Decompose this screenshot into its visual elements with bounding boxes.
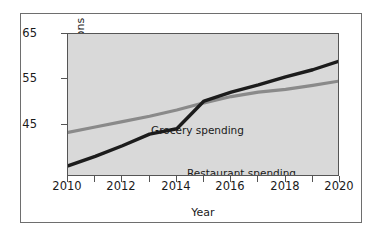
series-label-restaurant: Restaurant spending: [187, 167, 296, 176]
x-tick-mark-2013: [149, 176, 150, 182]
line-chart-svg: [68, 34, 339, 176]
y-tick-label-55: 55: [11, 71, 37, 85]
x-tick-label-2014: 2014: [156, 179, 196, 193]
y-tick-label-45: 45: [11, 117, 37, 131]
x-axis-title: Year: [67, 206, 339, 219]
plot-area: Grocery spending Restaurant spending: [67, 33, 339, 176]
y-tick-label-65: 65: [11, 26, 37, 40]
x-tick-label-2012: 2012: [101, 179, 141, 193]
x-tick-mark-2015: [203, 176, 204, 182]
x-tick-mark-2019: [312, 176, 313, 182]
series-label-grocery: Grocery spending: [151, 124, 244, 136]
x-tick-mark-2011: [94, 176, 95, 182]
x-tick-mark-2017: [257, 176, 258, 182]
x-tick-label-2016: 2016: [210, 179, 250, 193]
x-tick-label-2010: 2010: [47, 179, 87, 193]
figure-frame: Spending in Billions 65 55 45 2010 2012 …: [20, 13, 362, 223]
series-line-restaurant: [68, 61, 339, 166]
x-tick-label-2018: 2018: [265, 179, 305, 193]
x-tick-label-2020: 2020: [319, 179, 359, 193]
